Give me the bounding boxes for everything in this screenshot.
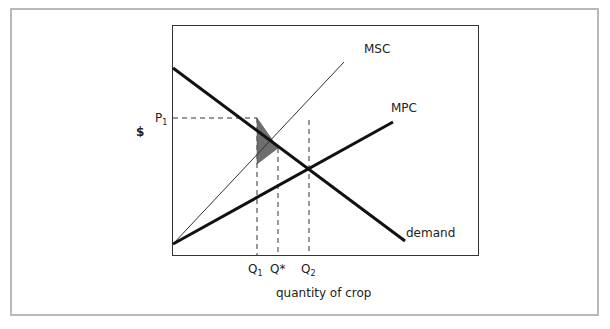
- externality-diagram: [0, 0, 610, 329]
- q2-label: Q2: [301, 262, 316, 278]
- mpc-label: MPC: [391, 101, 417, 115]
- demand-curve: [173, 68, 405, 241]
- mpc-curve: [173, 122, 393, 244]
- plot-area: [173, 26, 479, 256]
- y-axis-label: $: [136, 125, 144, 139]
- msc-label: MSC: [364, 42, 390, 56]
- qstar-label: Q*: [270, 262, 285, 276]
- deadweight-loss-area: [257, 118, 278, 164]
- msc-curve: [173, 62, 344, 244]
- p1-label: P1: [155, 111, 167, 127]
- q1-label: Q1: [248, 262, 263, 278]
- x-axis-label: quantity of crop: [276, 286, 371, 300]
- demand-label: demand: [406, 226, 455, 240]
